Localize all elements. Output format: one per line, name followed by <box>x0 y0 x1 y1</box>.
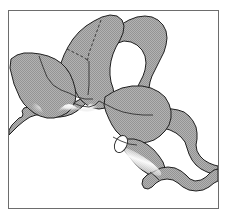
map-figure: Central America and southern Mexico Meso… <box>0 0 229 224</box>
map-frame <box>8 10 219 209</box>
map-canvas <box>9 11 218 208</box>
